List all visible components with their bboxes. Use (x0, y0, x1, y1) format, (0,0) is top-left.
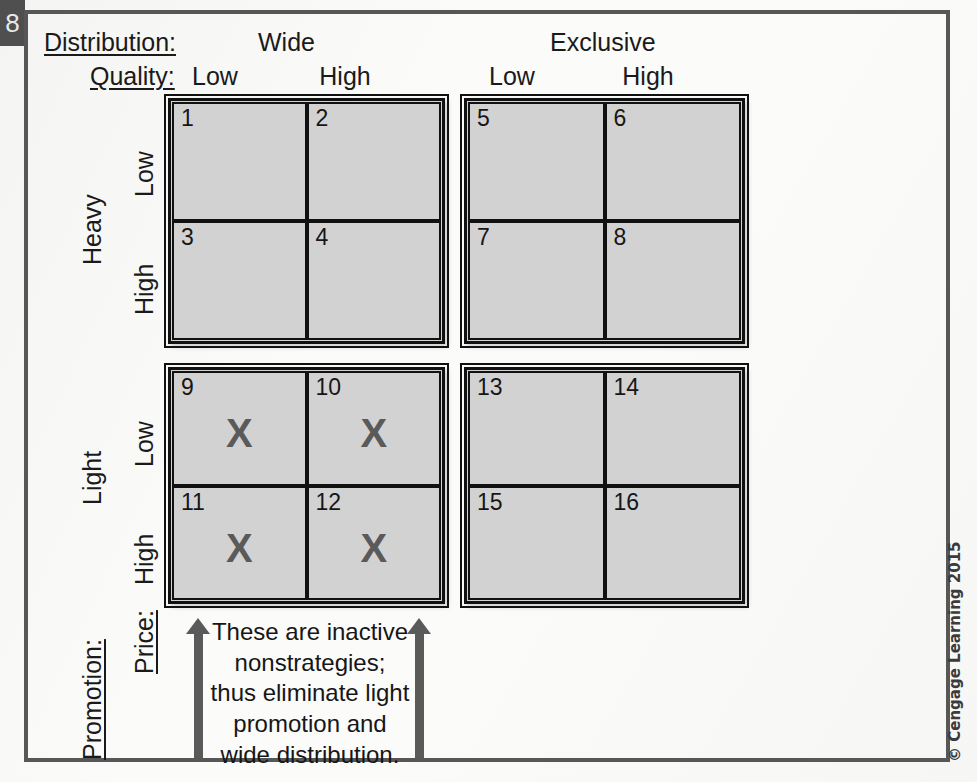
row-header-light-high: High (130, 534, 159, 585)
cell-number: 15 (477, 490, 503, 515)
distribution-label: Distribution: (44, 28, 176, 57)
quadrant-wide-heavy: 1 2 3 4 (168, 98, 445, 344)
cell-number: 4 (316, 225, 329, 250)
distribution-group-wide: Wide (258, 28, 315, 57)
promotion-group-light: Light (78, 451, 107, 505)
matrix-cell[interactable]: 4 (309, 223, 440, 338)
column-header-wide-high: High (295, 62, 395, 91)
matrix-cell[interactable]: 11 X (174, 488, 305, 599)
row-header-light-low: Low (130, 421, 159, 467)
cell-number: 16 (614, 490, 640, 515)
cell-number: 12 (316, 490, 342, 515)
cell-number: 14 (614, 375, 640, 400)
up-arrow-icon (186, 618, 210, 758)
cell-mark: X (360, 528, 387, 568)
matrix-cell[interactable]: 14 (607, 373, 740, 484)
matrix-cell[interactable]: 5 (470, 104, 603, 219)
matrix-cell[interactable]: 9 X (174, 373, 305, 484)
cell-mark: X (360, 413, 387, 453)
matrix-cell[interactable]: 3 (174, 223, 305, 338)
cell-number: 13 (477, 375, 503, 400)
quality-label: Quality: (90, 62, 175, 91)
column-header-exclusive-high: High (598, 62, 698, 91)
slide: 8 Distribution: Wide Exclusive Quality: … (0, 0, 977, 782)
matrix-cell[interactable]: 10 X (309, 373, 440, 484)
matrix-cell[interactable]: 12 X (309, 488, 440, 599)
column-header-wide-low: Low (165, 62, 265, 91)
cell-number: 9 (181, 375, 194, 400)
matrix-cell[interactable]: 16 (607, 488, 740, 599)
cell-number: 2 (316, 106, 329, 131)
quadrant-wide-light: 9 X 10 X 11 X 12 X (168, 367, 445, 604)
cell-number: 6 (614, 106, 627, 131)
row-header-heavy-high: High (130, 264, 159, 315)
cell-mark: X (226, 413, 253, 453)
arrow-head (186, 618, 210, 634)
copyright-notice: © Cengage Learning 2015 (946, 541, 964, 762)
cell-number: 10 (316, 375, 342, 400)
matrix-cell[interactable]: 2 (309, 104, 440, 219)
matrix-cell[interactable]: 13 (470, 373, 603, 484)
cell-number: 3 (181, 225, 194, 250)
cell-number: 11 (181, 490, 205, 515)
cell-number: 1 (181, 106, 194, 131)
matrix-cell[interactable]: 6 (607, 104, 740, 219)
cell-mark: X (226, 528, 253, 568)
up-arrow-icon (407, 618, 431, 758)
cell-number: 5 (477, 106, 490, 131)
matrix-cell[interactable]: 1 (174, 104, 305, 219)
page-number-tab: 8 (0, 0, 25, 46)
arrow-head (407, 618, 431, 634)
distribution-group-exclusive: Exclusive (550, 28, 656, 57)
arrow-shaft (415, 631, 424, 758)
promotion-group-heavy: Heavy (78, 194, 107, 265)
matrix-cell[interactable]: 8 (607, 223, 740, 338)
quadrant-exclusive-light: 13 14 15 16 (464, 367, 745, 604)
arrow-shaft (194, 631, 203, 758)
column-header-exclusive-low: Low (462, 62, 562, 91)
matrix-cell[interactable]: 7 (470, 223, 603, 338)
matrix-cell[interactable]: 15 (470, 488, 603, 599)
cell-number: 7 (477, 225, 490, 250)
promotion-axis-label: Promotion: (78, 639, 107, 760)
row-header-heavy-low: Low (130, 151, 159, 197)
quadrant-exclusive-heavy: 5 6 7 8 (464, 98, 745, 344)
caption-text: These are inactive nonstrategies; thus e… (210, 617, 410, 771)
cell-number: 8 (614, 225, 627, 250)
price-axis-label: Price: (130, 610, 159, 674)
